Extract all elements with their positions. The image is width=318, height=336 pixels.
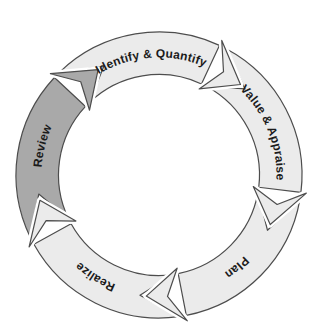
cycle-diagram-figure: Identify & QuantifyValue & AppraisePlanR… — [0, 0, 318, 336]
cycle-diagram: Identify & QuantifyValue & AppraisePlanR… — [0, 0, 318, 336]
